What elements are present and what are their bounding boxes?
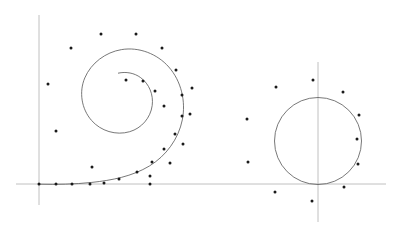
data-point-marker: [161, 47, 164, 50]
data-point-marker: [38, 183, 41, 186]
data-point-marker: [311, 200, 314, 203]
points-group: [38, 33, 361, 203]
data-point-marker: [274, 191, 277, 194]
data-point-marker: [100, 33, 103, 36]
data-point-marker: [181, 94, 184, 97]
data-point-marker: [174, 133, 177, 136]
spiral-circle-figure: Spiral and circle with marker points: [0, 0, 399, 225]
data-point-marker: [55, 183, 58, 186]
data-point-marker: [70, 47, 73, 50]
data-point-marker: [312, 79, 315, 82]
data-point-marker: [149, 183, 152, 186]
data-point-marker: [357, 163, 360, 166]
data-point-marker: [175, 69, 178, 72]
spiral-points: [38, 33, 194, 186]
data-point-marker: [189, 113, 192, 116]
data-point-marker: [182, 143, 185, 146]
curves-group: [39, 49, 362, 185]
data-point-marker: [135, 33, 138, 36]
data-point-marker: [47, 83, 50, 86]
data-point-marker: [125, 79, 128, 82]
data-point-marker: [103, 182, 106, 185]
data-point-marker: [149, 175, 152, 178]
data-point-marker: [151, 161, 154, 164]
data-point-marker: [91, 166, 94, 169]
data-point-marker: [191, 87, 194, 90]
data-point-marker: [358, 114, 361, 117]
data-point-marker: [342, 91, 345, 94]
data-point-marker: [181, 115, 184, 118]
data-point-marker: [71, 183, 74, 186]
figure-canvas: Spiral and circle with marker points: [0, 0, 399, 225]
data-point-marker: [247, 161, 250, 164]
data-point-marker: [142, 80, 145, 83]
data-point-marker: [89, 183, 92, 186]
data-point-marker: [343, 186, 346, 189]
data-point-marker: [169, 162, 172, 165]
axes-group: [16, 15, 386, 222]
data-point-marker: [246, 118, 249, 121]
data-point-marker: [163, 105, 166, 108]
data-point-marker: [356, 138, 359, 141]
data-point-marker: [163, 148, 166, 151]
data-point-marker: [154, 90, 157, 93]
data-point-marker: [136, 171, 139, 174]
data-point-marker: [275, 86, 278, 89]
data-point-marker: [55, 130, 58, 133]
spiral-curve: [39, 49, 184, 184]
data-point-marker: [118, 178, 121, 181]
